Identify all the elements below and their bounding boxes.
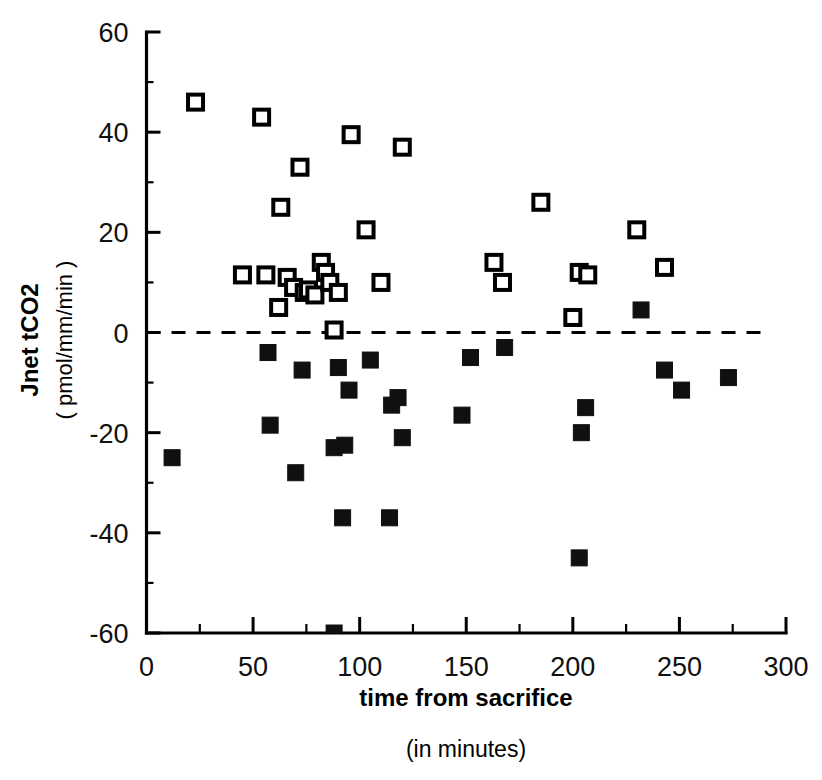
data-point-filled — [288, 465, 304, 481]
data-point-open — [395, 140, 410, 155]
data-point-open — [188, 95, 203, 110]
data-point-open — [533, 195, 548, 210]
x-tick-label: 100 — [337, 652, 382, 682]
data-point-filled — [164, 450, 180, 466]
scatter-plot-figure: -60-40-200204060050100150200250300 time … — [0, 0, 822, 780]
data-point-filled — [454, 407, 470, 423]
data-point-filled — [382, 510, 398, 526]
y-tick-label: 0 — [113, 319, 128, 349]
data-point-filled — [674, 382, 690, 398]
y-axis-subtitle-text: ( pmol/mm/min ) — [52, 261, 77, 420]
data-point-open — [344, 127, 359, 142]
y-tick-label: 60 — [98, 18, 128, 48]
data-point-filled — [362, 352, 378, 368]
data-point-filled — [571, 550, 587, 566]
data-point-open — [657, 260, 672, 275]
data-point-filled — [390, 390, 406, 406]
data-point-filled — [578, 400, 594, 416]
data-point-filled — [341, 382, 357, 398]
data-point-open — [629, 222, 644, 237]
data-point-open — [273, 200, 288, 215]
x-axis-subtitle-text: (in minutes) — [406, 736, 526, 762]
data-point-open — [565, 310, 580, 325]
y-tick-label: -20 — [89, 419, 128, 449]
data-point-open — [495, 275, 510, 290]
data-point-open — [331, 285, 346, 300]
y-tick-label: 20 — [98, 218, 128, 248]
y-tick-label: -40 — [89, 519, 128, 549]
data-point-open — [235, 267, 250, 282]
data-point-open — [359, 222, 374, 237]
data-point-open — [254, 110, 269, 125]
y-tick-label: -60 — [89, 619, 128, 649]
data-point-filled — [326, 625, 342, 633]
x-tick-label: 300 — [763, 652, 808, 682]
data-point-open — [580, 267, 595, 282]
x-tick-label: 200 — [550, 652, 595, 682]
x-tick-label: 150 — [444, 652, 489, 682]
data-point-open — [292, 160, 307, 175]
plot-canvas: -60-40-200204060050100150200250300 time … — [0, 0, 822, 780]
data-point-filled — [497, 340, 513, 356]
data-point-open — [258, 267, 273, 282]
data-point-open — [486, 255, 501, 270]
data-point-filled — [720, 370, 736, 386]
data-point-filled — [260, 345, 276, 361]
y-tick-label: 40 — [98, 118, 128, 148]
data-point-open — [373, 275, 388, 290]
data-point-filled — [294, 362, 310, 378]
data-point-filled — [394, 430, 410, 446]
x-axis-title-text: time from sacrifice — [359, 684, 572, 711]
x-tick-label: 0 — [139, 652, 154, 682]
data-point-open — [271, 300, 286, 315]
y-axis-title-text: Jnet tCO2 — [16, 283, 43, 396]
data-point-filled — [573, 425, 589, 441]
data-point-filled — [337, 437, 353, 453]
data-point-open — [327, 323, 342, 338]
data-point-open — [307, 287, 322, 302]
data-point-filled — [463, 350, 479, 366]
data-point-filled — [633, 302, 649, 318]
data-point-filled — [262, 417, 278, 433]
x-tick-label: 50 — [238, 652, 268, 682]
data-point-filled — [335, 510, 351, 526]
data-point-filled — [330, 360, 346, 376]
x-tick-label: 250 — [657, 652, 702, 682]
data-point-filled — [657, 362, 673, 378]
